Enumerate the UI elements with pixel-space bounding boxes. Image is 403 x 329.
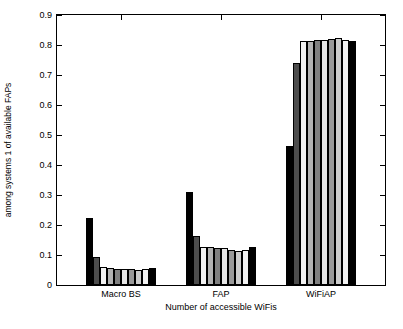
bar xyxy=(107,268,114,285)
x-category-label: WiFiAP xyxy=(306,289,336,299)
y-tick-label: 0.3 xyxy=(39,190,52,200)
y-tick xyxy=(57,45,62,46)
y-tick-right xyxy=(380,15,385,16)
bar xyxy=(249,247,256,285)
bar xyxy=(314,40,321,285)
x-category-label: Macro BS xyxy=(101,289,141,299)
y-tick xyxy=(57,75,62,76)
y-tick xyxy=(57,15,62,16)
y-axis-title: Distribution of the served traffic of in… xyxy=(0,20,14,280)
y-tick xyxy=(57,285,62,286)
bar xyxy=(135,270,142,285)
y-tick-right xyxy=(380,225,385,226)
bar xyxy=(321,40,328,285)
y-tick-label: 0 xyxy=(47,280,52,290)
y-tick-label: 0.1 xyxy=(39,250,52,260)
y-tick-label: 0.5 xyxy=(39,130,52,140)
bar xyxy=(228,250,235,285)
y-tick-right xyxy=(380,45,385,46)
bar xyxy=(214,248,221,285)
bar xyxy=(114,269,121,286)
bar xyxy=(193,236,200,285)
bar xyxy=(142,269,149,285)
bar xyxy=(342,40,349,285)
y-tick-label: 0.4 xyxy=(39,160,52,170)
bar xyxy=(186,192,193,285)
bar xyxy=(93,257,100,285)
y-tick xyxy=(57,225,62,226)
y-tick xyxy=(57,165,62,166)
bar xyxy=(86,218,93,286)
bar xyxy=(128,269,135,285)
bar xyxy=(207,247,214,285)
x-tick-top xyxy=(221,15,222,20)
y-tick xyxy=(57,105,62,106)
y-tick-right xyxy=(380,75,385,76)
x-category-label: FAP xyxy=(212,289,229,299)
y-tick-right xyxy=(380,165,385,166)
y-tick xyxy=(57,195,62,196)
y-tick-label: 0.7 xyxy=(39,70,52,80)
y-axis-title-line-2: among systems 1 of available FAPs xyxy=(2,20,14,280)
y-tick-right xyxy=(380,255,385,256)
bar xyxy=(100,267,107,285)
bar xyxy=(200,247,207,285)
bar xyxy=(349,41,356,286)
y-tick-right xyxy=(380,285,385,286)
bar xyxy=(242,250,249,285)
chart-page: Distribution of the served traffic of in… xyxy=(0,0,403,329)
bar xyxy=(300,41,307,285)
y-tick-label: 0.2 xyxy=(39,220,52,230)
plot-area: 00.10.20.30.40.50.60.70.80.9Macro BSFAPW… xyxy=(56,14,386,286)
bar xyxy=(121,269,128,286)
bar xyxy=(149,268,156,285)
y-tick-right xyxy=(380,105,385,106)
y-tick-label: 0.8 xyxy=(39,40,52,50)
bar xyxy=(293,63,300,285)
x-axis-title: Number of accessible WiFis xyxy=(56,302,386,312)
y-tick-label: 0.9 xyxy=(39,10,52,20)
bar xyxy=(335,38,342,286)
y-tick-right xyxy=(380,135,385,136)
y-tick xyxy=(57,135,62,136)
bar xyxy=(221,248,228,285)
x-tick-top xyxy=(121,15,122,20)
y-tick-label: 0.6 xyxy=(39,100,52,110)
bar xyxy=(286,146,293,286)
bar xyxy=(328,39,335,285)
y-tick xyxy=(57,255,62,256)
bar xyxy=(235,251,242,285)
y-tick-right xyxy=(380,195,385,196)
x-tick-top xyxy=(321,15,322,20)
bar xyxy=(307,41,314,286)
